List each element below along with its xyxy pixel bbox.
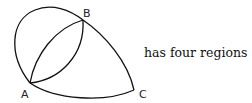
lens-right-arc <box>30 20 83 83</box>
outer-arc-a-b <box>15 7 83 83</box>
arc-b-c <box>83 20 134 90</box>
point-label-a: A <box>21 88 29 101</box>
point-label-b: B <box>83 7 91 20</box>
point-label-c: C <box>139 88 147 101</box>
caption: has four regions <box>144 45 247 60</box>
arc-a-c <box>30 83 134 98</box>
